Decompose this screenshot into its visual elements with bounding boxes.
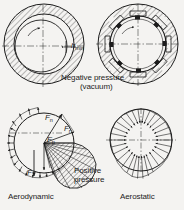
label-h-min: hmin bbox=[71, 41, 84, 51]
force-normal-subscript: n bbox=[50, 117, 53, 123]
h-min-subscript: min bbox=[75, 45, 84, 51]
force-pressure-subscript: p bbox=[52, 139, 55, 145]
label-force-pressure: Fp bbox=[47, 135, 55, 145]
force-resultant-subscript: r bbox=[69, 128, 71, 134]
figure-container: hmin Negative pressure (vacuum) Fn Fr Fp… bbox=[0, 0, 184, 210]
label-aerodynamic: Aerodynamic bbox=[8, 192, 54, 201]
label-aerostatic: Aerostatic bbox=[120, 192, 155, 201]
label-force-resultant: Fr bbox=[64, 124, 71, 134]
label-positive-pressure: Positive pressure bbox=[74, 166, 116, 184]
label-force-load: F bbox=[27, 168, 32, 177]
label-negative-pressure: Negative pressure bbox=[61, 73, 124, 82]
label-vacuum: (vacuum) bbox=[80, 82, 113, 91]
label-force-normal: Fn bbox=[45, 113, 53, 123]
